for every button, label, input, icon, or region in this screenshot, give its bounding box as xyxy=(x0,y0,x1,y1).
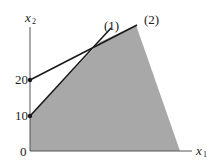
x-axis-label-sub: 1 xyxy=(203,150,207,159)
y-axis-label-sub: 2 xyxy=(32,17,36,26)
y-axis-label: x xyxy=(24,10,31,25)
lp-diagram: (1) (2) 20 10 0 x 2 x 1 xyxy=(0,0,215,164)
intercept-point-20 xyxy=(28,78,32,82)
y-tick-0: 0 xyxy=(20,144,27,159)
x-axis-label: x xyxy=(195,143,202,158)
feasible-region xyxy=(30,25,180,151)
intercept-point-10 xyxy=(28,114,32,118)
y-tick-10: 10 xyxy=(15,108,28,123)
line-1-label: (1) xyxy=(104,18,119,33)
line-2-label: (2) xyxy=(144,12,159,27)
y-tick-20: 20 xyxy=(15,72,28,87)
